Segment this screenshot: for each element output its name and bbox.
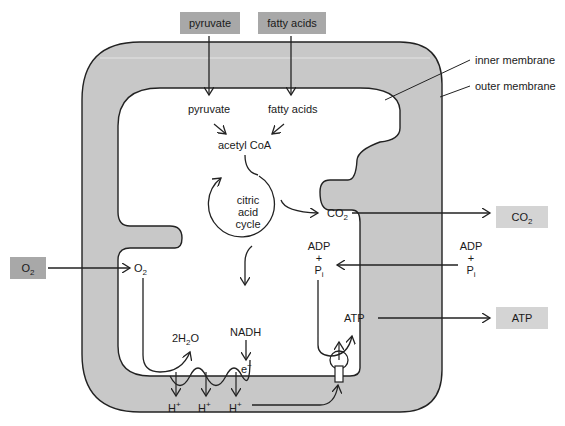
acetyl-coa-label: acetyl CoA	[218, 139, 271, 151]
co2-inner-label: CO2	[327, 207, 348, 224]
atp-output-box: ATP	[496, 307, 548, 329]
proton-label-2: H+	[198, 399, 211, 414]
pyruvate-label: pyruvate	[188, 103, 230, 115]
o2-input-box: O2	[10, 257, 46, 279]
fatty-acids-label: fatty acids	[268, 103, 318, 115]
adp-pi-inner-label: ADP + Pi	[304, 240, 334, 281]
proton-label-3: H+	[229, 399, 242, 414]
inner-membrane-label: inner membrane	[475, 54, 555, 66]
nadh-label: NADH	[230, 326, 261, 338]
co2-output-box: CO2	[496, 206, 548, 228]
fatty-acids-input-box: fatty acids	[258, 12, 326, 34]
citric-acid-cycle-label: citric acid cycle	[228, 194, 268, 230]
outer-membrane-label: outer membrane	[475, 80, 556, 92]
o2-inner-label: O2	[134, 262, 147, 279]
proton-label-1: H+	[168, 399, 181, 414]
electron-label: e−	[241, 360, 252, 375]
atp-inner-label: ATP	[344, 312, 365, 324]
water-label: 2H2O	[172, 332, 199, 349]
pyruvate-input-box: pyruvate	[180, 12, 240, 34]
adp-pi-outer-label: ADP + Pi	[456, 240, 486, 281]
